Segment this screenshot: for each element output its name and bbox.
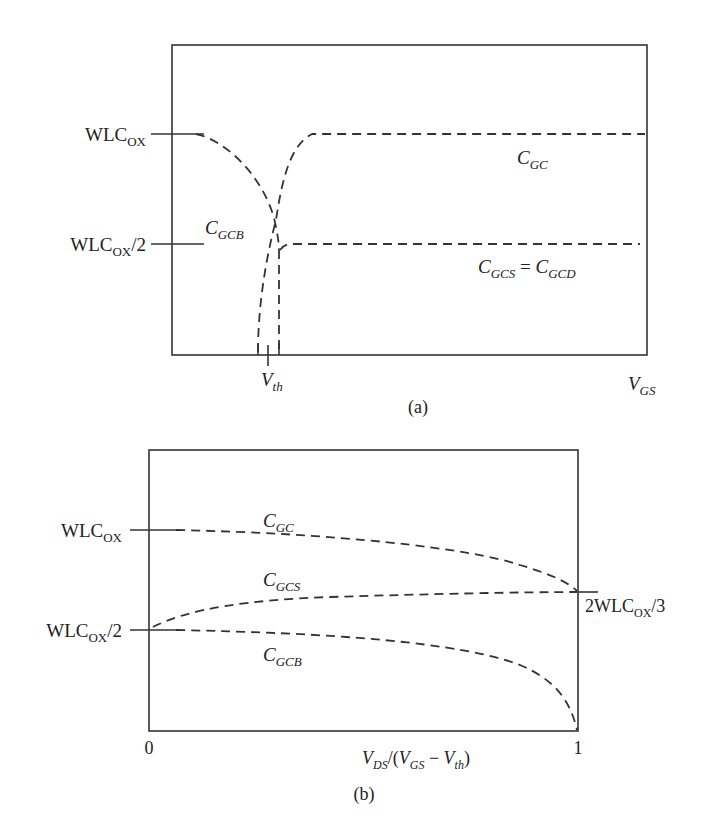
chart-a-frame bbox=[172, 45, 647, 355]
chart-a-curve-cgcs bbox=[280, 244, 640, 250]
chart-a: WLCOX WLCOX/2 CGCB CGC CGCS = CGCD Vth V… bbox=[70, 45, 656, 418]
chart-b-frame bbox=[149, 450, 578, 731]
chart-a-caption: (a) bbox=[408, 397, 428, 418]
chart-b-caption: (b) bbox=[354, 784, 375, 805]
chart-a-label-cgc: CGC bbox=[517, 147, 548, 172]
chart-a-label-cgcb: CGCB bbox=[205, 217, 244, 242]
chart-b-curve-cgcb bbox=[176, 630, 577, 730]
chart-a-label-cgcs-eq-cgcd: CGCS = CGCD bbox=[478, 256, 576, 281]
chart-b: WLCOX WLCOX/2 2WLCOX/3 CGC CGCS CGCB 0 1… bbox=[46, 450, 665, 805]
chart-b-ylabel-wlcox: WLCOX bbox=[61, 520, 123, 545]
chart-b-label-cgcb: CGCB bbox=[263, 644, 302, 669]
figure-canvas: WLCOX WLCOX/2 CGCB CGC CGCS = CGCD Vth V… bbox=[0, 0, 717, 835]
chart-a-curve-cgc bbox=[258, 134, 645, 352]
chart-b-ylabel-wlcox-half: WLCOX/2 bbox=[46, 620, 122, 645]
chart-a-xlabel-vgs: VGS bbox=[628, 373, 656, 398]
chart-b-curve-cgcs bbox=[153, 592, 577, 627]
chart-b-label-cgc: CGC bbox=[263, 510, 294, 535]
chart-a-xlabel-vth: Vth bbox=[261, 369, 283, 394]
chart-a-ylabel-wlcox: WLCOX bbox=[85, 124, 147, 149]
chart-b-curve-cgc bbox=[176, 530, 577, 591]
chart-a-ylabel-wlcox-half: WLCOX/2 bbox=[70, 234, 146, 259]
chart-b-xlabel: VDS/(VGS − Vth) bbox=[362, 748, 470, 772]
chart-b-right-label-2wlcox-third: 2WLCOX/3 bbox=[585, 596, 665, 620]
chart-b-xtick-1: 1 bbox=[574, 738, 583, 758]
chart-b-xtick-0: 0 bbox=[145, 738, 154, 758]
chart-b-label-cgcs: CGCS bbox=[263, 569, 301, 594]
